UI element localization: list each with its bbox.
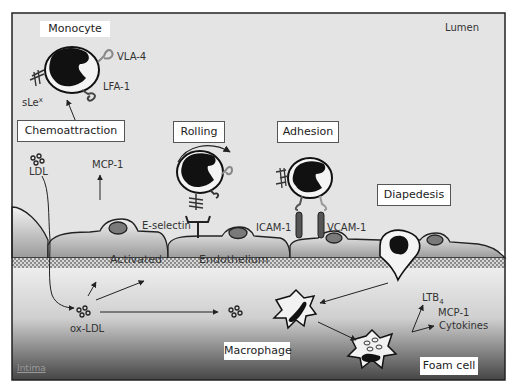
vcam1-label: VCAM-1 (327, 223, 366, 233)
ltb-subscript: 4 (439, 298, 443, 306)
slex-text: sLe (22, 97, 39, 108)
cytokines-label: Cytokines (439, 321, 488, 331)
monocyte-label: Monocyte (40, 21, 110, 37)
chemoattraction-label: Chemoattraction (17, 120, 125, 142)
macrophage-label: Macrophage (224, 342, 290, 360)
ldl-label: LDL (29, 167, 48, 177)
adhesion-label: Adhesion (277, 121, 339, 143)
ox-ldl-label: ox-LDL (70, 324, 104, 334)
endothelium-label: Endothelium (199, 254, 269, 265)
slex-superscript: x (39, 96, 43, 104)
slex-label: sLex (22, 97, 43, 108)
e-selectin-label: E-selectin (142, 221, 191, 231)
icam1-label: ICAM-1 (256, 223, 291, 233)
mcp1-intima-label: MCP-1 (438, 308, 469, 318)
lfa1-label: LFA-1 (103, 82, 130, 92)
diapedesis-label: Diapedesis (377, 184, 451, 206)
mcp1-lumen-label: MCP-1 (92, 160, 123, 170)
foam-cell-label: Foam cell (420, 357, 478, 375)
vla4-label: VLA-4 (117, 52, 146, 62)
ltb-text: LTB (422, 292, 439, 303)
activated-label: Activated (110, 254, 162, 265)
intima-label: Intima (17, 364, 46, 373)
rolling-label: Rolling (173, 121, 225, 143)
diagram-canvas: Monocyte Lumen VLA-4 LFA-1 sLex Chemoatt… (0, 0, 515, 389)
ltb4-label: LTB4 (422, 293, 444, 306)
lumen-label: Lumen (445, 23, 479, 33)
